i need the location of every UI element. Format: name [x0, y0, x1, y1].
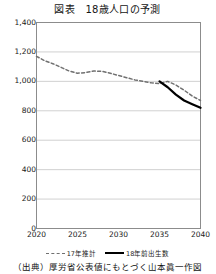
y-axis-tick-label: 600	[4, 136, 36, 144]
series-line-2	[160, 81, 201, 107]
gridlines	[37, 23, 201, 200]
chart-legend: 17年推計18年前出生数	[0, 248, 215, 258]
plot-frame	[37, 23, 201, 229]
legend-swatch-icon	[46, 253, 65, 254]
legend-entry: 18年前出生数	[105, 248, 169, 258]
legend-entry: 17年推計	[46, 248, 96, 258]
y-axis-tick-label: 1,000	[4, 77, 36, 85]
x-axis-tick-label: 2025	[58, 231, 98, 239]
y-axis-tick-label: 400	[4, 166, 36, 174]
legend-label: 18年前出生数	[126, 248, 169, 258]
series-layer	[37, 56, 201, 107]
y-axis-tick-label: 1,200	[4, 48, 36, 56]
x-axis-tick-label: 2020	[17, 231, 57, 239]
source-note: （出典）厚労省公表値にもとづく山本眞一作図	[0, 260, 215, 272]
y-axis-tick-label: 1,400	[4, 19, 36, 27]
legend-label: 17年推計	[67, 248, 96, 258]
x-axis-tick-label: 2040	[181, 231, 216, 239]
legend-swatch-icon	[105, 252, 124, 254]
x-axis-tick-label: 2035	[140, 231, 180, 239]
chart-figure: 図表 18歳人口の予測 1,4001,2001,0008006004002000…	[0, 0, 215, 274]
y-axis-tick-label: 800	[4, 107, 36, 115]
x-axis-tick-label: 2030	[99, 231, 139, 239]
y-axis-tick-label: 200	[4, 195, 36, 203]
